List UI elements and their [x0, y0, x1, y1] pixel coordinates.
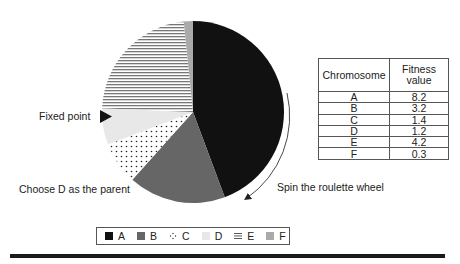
cell-chromosome: D: [319, 125, 390, 136]
swatch-dark-gray-icon: [137, 232, 145, 240]
cell-fitness: 1.2: [390, 125, 449, 136]
table-header-row: Chromosome Fitness value: [319, 59, 449, 92]
swatch-light-gray-icon: [202, 232, 210, 240]
fixed-point-label: Fixed point: [39, 110, 90, 122]
legend-label: B: [150, 230, 157, 242]
header-fitness: Fitness value: [390, 59, 449, 92]
header-chromosome: Chromosome: [319, 59, 390, 92]
table-row: F0.3: [319, 148, 449, 159]
cell-fitness: 1.4: [390, 114, 449, 125]
choose-parent-label: Choose D as the parent: [19, 183, 130, 195]
table-row: E4.2: [319, 137, 449, 148]
cell-fitness: 8.2: [390, 92, 449, 103]
fitness-table: Chromosome Fitness value A8.2 B3.2 C1.4 …: [318, 58, 449, 160]
legend-label: D: [215, 230, 223, 242]
cell-chromosome: B: [319, 103, 390, 114]
pie-slices: [102, 21, 284, 203]
cell-fitness: 0.3: [390, 148, 449, 159]
spin-label: Spin the roulette wheel: [277, 181, 384, 193]
legend-item-e: E: [234, 230, 254, 242]
table-row: D1.2: [319, 125, 449, 136]
legend-label: C: [182, 230, 190, 242]
bottom-divider: [10, 254, 445, 258]
cell-chromosome: E: [319, 137, 390, 148]
pie-slice-e: [102, 21, 193, 112]
legend: A B C D E F: [96, 227, 290, 245]
table-row: A8.2: [319, 92, 449, 103]
swatch-mid-gray-icon: [266, 232, 274, 240]
header-fitness-line2: value: [406, 74, 431, 86]
swatch-solid-black-icon: [105, 232, 113, 240]
table-row: B3.2: [319, 103, 449, 114]
legend-item-d: D: [202, 230, 223, 242]
cell-chromosome: F: [319, 148, 390, 159]
cell-chromosome: C: [319, 114, 390, 125]
swatch-horizontal-lines-icon: [234, 232, 242, 240]
cell-fitness: 4.2: [390, 137, 449, 148]
legend-item-c: C: [169, 230, 190, 242]
swatch-dots-icon: [169, 232, 177, 240]
table-row: C1.4: [319, 114, 449, 125]
legend-item-b: B: [137, 230, 157, 242]
legend-label: A: [118, 230, 125, 242]
legend-label: E: [247, 230, 254, 242]
cell-fitness: 3.2: [390, 103, 449, 114]
legend-item-a: A: [105, 230, 125, 242]
legend-label: F: [279, 230, 285, 242]
cell-chromosome: A: [319, 92, 390, 103]
legend-item-f: F: [266, 230, 285, 242]
